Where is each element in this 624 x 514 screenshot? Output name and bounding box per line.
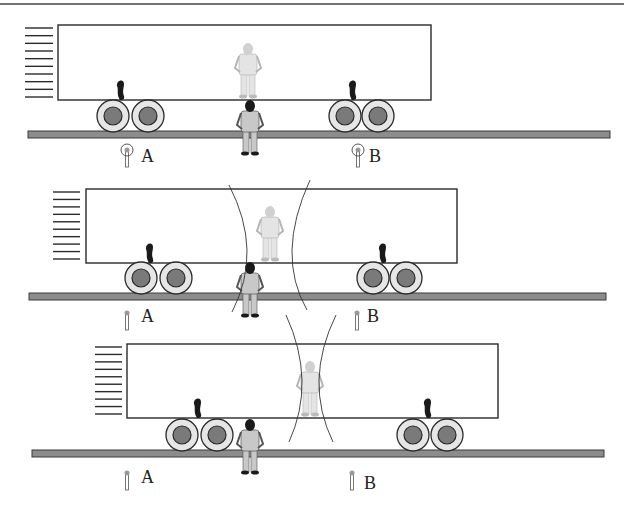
lamp-label-a: A <box>141 307 154 325</box>
leg-left <box>241 74 247 96</box>
wheel-hub <box>132 269 150 287</box>
shoe-left <box>241 314 249 318</box>
lamp-pole <box>357 151 360 167</box>
wheel-hub <box>173 426 191 444</box>
shoe-right <box>311 413 319 417</box>
torso <box>241 430 259 451</box>
shoe-right <box>249 95 257 99</box>
leg-right <box>251 131 257 153</box>
lamp-label-b: B <box>367 307 379 325</box>
wheel <box>160 262 192 294</box>
lamp-bulb <box>355 311 360 316</box>
lamp-pole <box>126 314 129 330</box>
panel-3 <box>32 315 604 490</box>
lamp-label-a: A <box>141 468 154 486</box>
wheel <box>329 100 361 132</box>
lamp-post-b <box>352 144 364 167</box>
wheel-hub <box>336 107 354 125</box>
leg-right <box>249 74 255 96</box>
shoe-left <box>241 471 249 475</box>
rail-track <box>29 293 606 300</box>
lamp-pole <box>126 474 129 490</box>
lamp-bulb <box>125 148 130 153</box>
lamp-post-a <box>121 144 133 167</box>
wheel <box>431 419 463 451</box>
leg-right <box>251 450 257 472</box>
lamp-bulb <box>356 148 361 153</box>
wheel-hub <box>167 269 185 287</box>
torso <box>241 273 259 294</box>
leg-left <box>243 131 249 153</box>
leg-right <box>271 237 277 259</box>
leg-right <box>311 392 317 414</box>
leg-left <box>263 237 269 259</box>
lamp-bulb <box>125 471 130 476</box>
head <box>305 361 315 373</box>
shoe-right <box>271 258 279 262</box>
torso <box>301 372 319 393</box>
rail-track <box>32 450 604 457</box>
torso <box>241 111 259 132</box>
leg-left <box>243 293 249 315</box>
wheel-hub <box>364 269 382 287</box>
shoe-left <box>261 258 269 262</box>
leg-right <box>251 293 257 315</box>
wheel-hub <box>104 107 122 125</box>
shoe-left <box>239 95 247 99</box>
lamp-pole <box>126 151 129 167</box>
head <box>245 419 255 431</box>
lamp-bulb <box>125 311 130 316</box>
head <box>245 100 255 112</box>
torso <box>261 217 279 238</box>
lamp-post-a <box>125 471 130 491</box>
relativity-train-diagram <box>0 0 624 514</box>
lamp-pole <box>351 474 354 490</box>
lamp-pole <box>356 314 359 330</box>
lamp-label-a: A <box>141 147 154 165</box>
wheel <box>397 419 429 451</box>
motion-lines <box>95 347 122 414</box>
lamp-post-a <box>125 311 130 331</box>
lamp-post-b <box>350 471 355 491</box>
wheel-hub <box>369 107 387 125</box>
wheel <box>390 262 422 294</box>
shoe-right <box>251 152 259 156</box>
motion-lines <box>53 192 80 259</box>
wheel-hub <box>139 107 157 125</box>
wheel-hub <box>397 269 415 287</box>
wheel-hub <box>208 426 226 444</box>
wheel <box>97 100 129 132</box>
diagram-panels <box>25 25 610 490</box>
ground-observer <box>237 100 263 156</box>
leg-left <box>243 450 249 472</box>
wheel-hub <box>404 426 422 444</box>
wheel <box>132 100 164 132</box>
lamp-bulb <box>350 471 355 476</box>
leg-left <box>303 392 309 414</box>
head <box>243 43 253 55</box>
wheel <box>357 262 389 294</box>
wheel <box>125 262 157 294</box>
wheel <box>362 100 394 132</box>
panel-2 <box>29 180 606 330</box>
lamp-post-b <box>355 311 360 331</box>
motion-lines <box>25 28 53 97</box>
torso <box>239 54 257 75</box>
ground-observer <box>237 419 263 475</box>
head <box>265 206 275 218</box>
panel-1 <box>25 25 610 167</box>
shoe-left <box>301 413 309 417</box>
wheel-hub <box>438 426 456 444</box>
shoe-right <box>251 314 259 318</box>
lamp-label-b: B <box>369 147 381 165</box>
wheel <box>201 419 233 451</box>
shoe-left <box>241 152 249 156</box>
lamp-label-b: B <box>364 474 376 492</box>
wheel <box>166 419 198 451</box>
shoe-right <box>251 471 259 475</box>
